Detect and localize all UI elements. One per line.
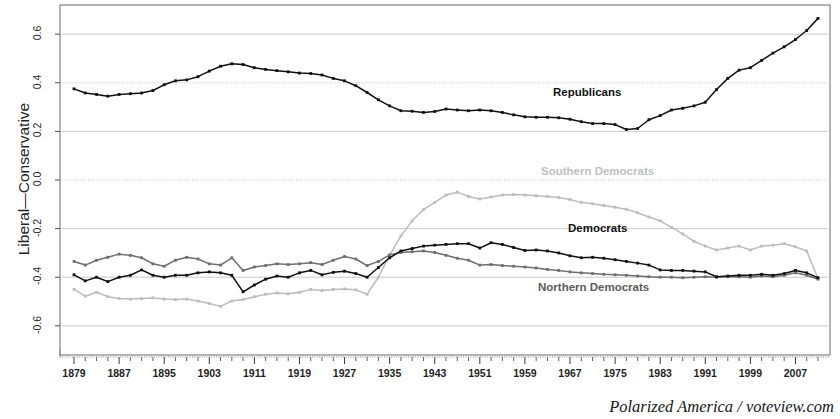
y-tick-label: 0.0 <box>31 162 43 196</box>
x-tick-label: 2007 <box>775 367 815 379</box>
x-tick-label: 1887 <box>99 367 139 379</box>
x-tick-label: 1919 <box>279 367 319 379</box>
y-tick-label: 0.6 <box>31 16 43 50</box>
y-tick-label: -0.2 <box>31 211 43 245</box>
x-tick-label: 1975 <box>595 367 635 379</box>
series-southern-democrats <box>73 191 820 308</box>
x-tick-label: 1983 <box>640 367 680 379</box>
x-tick-label: 1943 <box>415 367 455 379</box>
series-label-republicans: Republicans <box>553 86 621 98</box>
x-tick-label: 1935 <box>370 367 410 379</box>
x-tick-label: 1991 <box>685 367 725 379</box>
data-series-group <box>73 17 820 308</box>
series-label-democrats: Democrats <box>568 222 627 234</box>
x-tick-label: 1951 <box>460 367 500 379</box>
series-democrats <box>73 241 820 293</box>
axis-ticks-group <box>55 34 830 364</box>
x-tick-label: 1999 <box>730 367 770 379</box>
x-tick-label: 1927 <box>325 367 365 379</box>
y-axis-label-container: Liberal—Conservative <box>4 0 34 355</box>
y-tick-label: 0.2 <box>31 113 43 147</box>
gridlines-group <box>62 34 828 326</box>
y-tick-label: -0.4 <box>31 259 43 293</box>
x-tick-label: 1959 <box>505 367 545 379</box>
x-tick-label: 1903 <box>189 367 229 379</box>
x-tick-label: 1879 <box>54 367 94 379</box>
x-tick-label: 1911 <box>234 367 274 379</box>
chart-caption: Polarized America / voteview.com <box>609 397 834 417</box>
x-tick-label: 1967 <box>550 367 590 379</box>
y-tick-label: 0.4 <box>31 65 43 99</box>
x-tick-label: 1895 <box>144 367 184 379</box>
line-chart-svg <box>0 0 840 419</box>
y-tick-label: -0.6 <box>31 308 43 342</box>
series-label-northern-democrats: Northern Democrats <box>538 281 649 293</box>
series-label-southern-democrats: Southern Democrats <box>541 165 654 177</box>
chart-page: Liberal—Conservative 0.60.40.20.0-0.2-0.… <box>0 0 840 419</box>
